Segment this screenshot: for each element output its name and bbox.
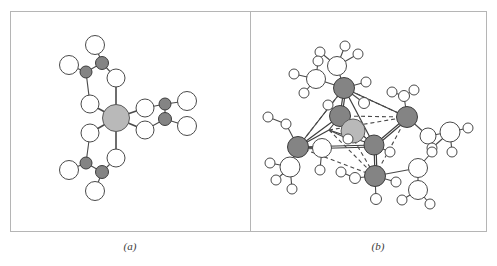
panel-b-caption: (b) [358,240,398,252]
panel-a-caption: (a) [110,240,150,252]
panel-b-structure [0,0,497,266]
figure-root: (a) (b) [0,0,497,266]
